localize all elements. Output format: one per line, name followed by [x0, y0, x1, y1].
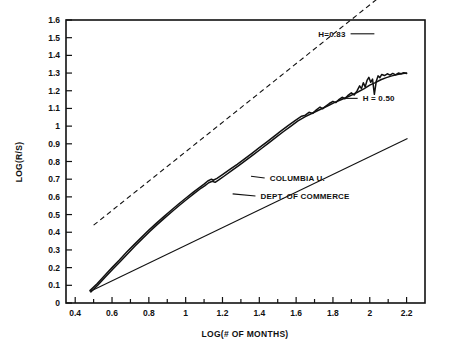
y-tick-label: 1.1	[48, 103, 60, 113]
y-tick-label: 0	[55, 298, 60, 308]
rs-analysis-chart: 0.40.60.811.21.41.61.822.2 00.10.20.30.4…	[0, 0, 461, 343]
y-tick-label: 1.3	[48, 68, 60, 78]
x-tick-label: 0.4	[69, 308, 81, 318]
y-tick-label: 0.8	[48, 157, 60, 167]
annotation-label: H = 0.50	[363, 94, 395, 103]
x-tick-label: 2.2	[401, 308, 413, 318]
x-tick-label: 1.4	[253, 308, 265, 318]
x-tick-label: 1.8	[327, 308, 339, 318]
x-tick-label: 0.8	[143, 308, 155, 318]
x-tick-label: 0.6	[106, 308, 118, 318]
y-tick-label: 0.5	[48, 210, 60, 220]
y-tick-label: 0.6	[48, 192, 60, 202]
annotation-label: H=0.83	[318, 30, 346, 39]
annotation-label: DEPT. OF COMMERCE	[260, 192, 350, 201]
y-tick-label: 1.6	[48, 15, 60, 25]
y-tick-label: 1.4	[48, 50, 60, 60]
y-tick-label: 0.3	[48, 245, 60, 255]
x-tick-label: 1.6	[290, 308, 302, 318]
y-tick-label: 0.7	[48, 174, 60, 184]
y-tick-label: 0.1	[48, 280, 60, 290]
y-tick-label: 1.5	[48, 33, 60, 43]
y-axis-tick-labels: 00.10.20.30.40.50.60.70.80.911.11.21.31.…	[48, 15, 60, 308]
chart-svg: 0.40.60.811.21.41.61.822.2 00.10.20.30.4…	[0, 0, 461, 343]
y-tick-label: 1.2	[48, 86, 60, 96]
y-tick-label: 0.2	[48, 263, 60, 273]
y-tick-label: 0.4	[48, 227, 60, 237]
annotation-label: COLUMBIA U.	[270, 174, 325, 183]
x-tick-label: 2	[367, 308, 372, 318]
x-tick-label: 1	[183, 308, 188, 318]
y-axis-title: LOG(R/S)	[14, 142, 24, 183]
x-axis-title: LOG(# OF MONTHS)	[202, 329, 289, 339]
x-tick-label: 1.2	[217, 308, 229, 318]
y-tick-label: 1	[55, 121, 60, 131]
y-tick-label: 0.9	[48, 139, 60, 149]
